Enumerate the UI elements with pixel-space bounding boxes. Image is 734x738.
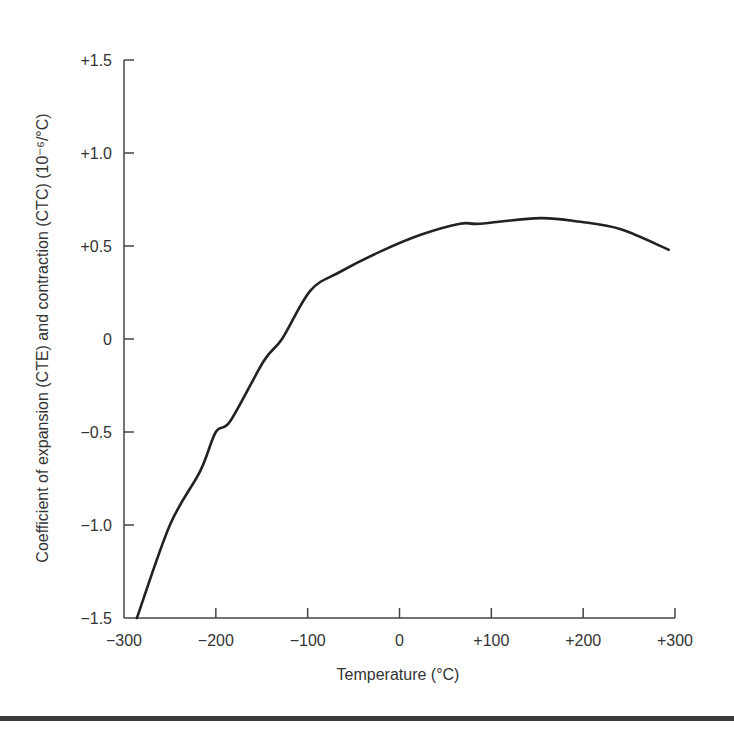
x-tick-label: +300 [657,632,693,649]
chart: −300−200−1000+100+200+300 +1.5+1.0+0.50−… [0,0,734,738]
x-tick-label: −100 [290,632,326,649]
y-axis-title: Coefficient of expansion (CTE) and contr… [34,113,51,562]
y-tick-label: +0.5 [80,238,112,255]
axes [124,60,675,618]
y-tick-label: −1.0 [80,517,112,534]
bottom-rule-divider [0,716,734,721]
y-tick-label: +1.0 [80,145,112,162]
y-tick-label: −1.5 [80,610,112,627]
x-axis-ticks: −300−200−1000+100+200+300 [106,608,693,649]
x-tick-label: −200 [198,632,234,649]
y-tick-label: −0.5 [80,424,112,441]
x-tick-label: +200 [565,632,601,649]
y-axis-ticks: +1.5+1.0+0.50−0.5−1.0−1.5 [80,52,134,627]
x-tick-label: 0 [395,632,404,649]
y-tick-label: +1.5 [80,52,112,69]
x-tick-label: −300 [106,632,142,649]
x-axis-title: Temperature (°C) [337,666,460,683]
x-tick-label: +100 [473,632,509,649]
y-tick-label: 0 [103,331,112,348]
cte-curve [137,218,669,618]
